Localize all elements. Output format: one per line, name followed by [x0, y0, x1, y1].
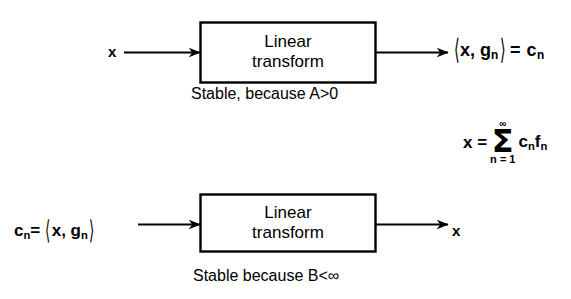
caption-bottom: Stable because B<∞ — [193, 268, 339, 284]
summand-f-sub: n — [540, 139, 547, 151]
input-inner-bottom: x, g — [52, 221, 81, 240]
caption-top: Stable, because A>0 — [191, 86, 338, 102]
input-g-sub-bottom: n — [81, 229, 88, 241]
angle-bracket-open-icon: ⟨ — [453, 36, 459, 64]
input-label-bottom: cn= ⟨x, gn⟩ — [14, 222, 96, 241]
angle-bracket-close-icon-bottom: ⟩ — [89, 217, 95, 243]
output-label-bottom: x — [452, 223, 460, 238]
output-sub-n-top: n — [491, 48, 498, 62]
formula-lead: x = — [463, 134, 487, 151]
sigma-icon: Σ — [492, 128, 514, 154]
sigma-lower-limit: n = 1 — [490, 154, 515, 165]
sigma-stack: ∞ Σ n = 1 — [490, 119, 515, 165]
summation-formula: x = ∞ Σ n = 1 cnfn — [463, 119, 547, 165]
summand-c: c — [518, 132, 527, 151]
formula-summand: cnfn — [518, 133, 547, 152]
block-line2-top: transform — [202, 52, 374, 72]
diagram-canvas: x Linear transform ⟨x, gn⟩ = cn Stable, … — [0, 0, 571, 299]
summand-c-sub: n — [528, 139, 535, 151]
angle-bracket-close-icon: ⟩ — [499, 36, 505, 64]
output-sub-cn-top: n — [537, 48, 544, 62]
output-eq-top: = c — [510, 40, 537, 60]
angle-bracket-open-icon-bottom: ⟨ — [45, 217, 51, 243]
block-line2-bottom: transform — [202, 223, 374, 243]
linear-transform-label-top: Linear transform — [202, 32, 374, 72]
input-label-top: x — [108, 44, 116, 59]
output-inner-top: x, g — [460, 40, 491, 60]
output-label-top: ⟨x, gn⟩ = cn — [452, 41, 544, 62]
linear-transform-label-bottom: Linear transform — [202, 203, 374, 243]
input-eq-bottom: = — [30, 221, 40, 240]
block-line1-top: Linear — [202, 32, 374, 52]
block-line1-bottom: Linear — [202, 203, 374, 223]
